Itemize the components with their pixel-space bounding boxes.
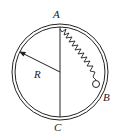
spring xyxy=(60,29,96,80)
label-b: B xyxy=(103,91,110,103)
label-r: R xyxy=(33,68,41,80)
label-c: C xyxy=(54,121,62,133)
label-a: A xyxy=(52,8,60,20)
ball xyxy=(93,81,100,88)
radius-line xyxy=(22,53,60,72)
ring-spring-diagram: A C B R xyxy=(0,0,121,137)
